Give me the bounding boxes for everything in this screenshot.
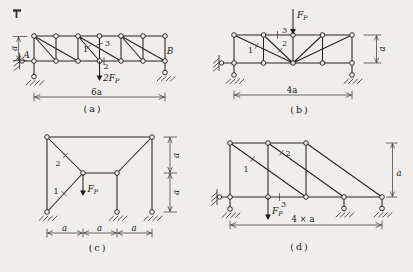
joint-node <box>141 59 146 64</box>
member-2-label: 2 <box>103 62 108 71</box>
joint-node <box>261 33 266 38</box>
joint-node <box>163 59 168 64</box>
joint-node <box>380 195 385 200</box>
dim-span-6a: 6a <box>34 87 165 101</box>
joint-node <box>32 34 37 39</box>
truss-d-members <box>230 143 382 197</box>
joint-node <box>228 195 233 200</box>
dim-span-4a: 4a <box>234 85 352 100</box>
load-label: 2FP <box>102 73 120 85</box>
dim-height-label: a <box>9 46 19 51</box>
joint-node <box>119 34 124 39</box>
truss-a-members <box>34 36 165 61</box>
truss-c-nodes <box>45 135 155 215</box>
member-marks-a: 1 2 3 <box>83 39 110 72</box>
truss-c-members <box>47 137 152 212</box>
joint-node <box>119 59 124 64</box>
panel-c: FP 2 1 a a a a a (c) <box>39 135 181 253</box>
member-1-label: 1 <box>83 45 88 54</box>
dim-height-label-lower: a <box>171 190 181 195</box>
dim-height-d: a <box>387 143 402 197</box>
joint-node <box>266 141 271 146</box>
ground-hinge-node <box>342 206 347 211</box>
ground-hatch <box>109 216 127 220</box>
joint-node <box>291 61 296 66</box>
member-marks-c: 2 1 <box>53 153 67 196</box>
caption-b: (b) <box>290 104 310 115</box>
joint-node <box>150 135 155 140</box>
member-1-label: 1 <box>243 165 248 174</box>
support-label-B: B <box>166 46 174 56</box>
truss-problem-figure: 2FP A B 1 2 3 a 6a (a) <box>0 0 413 272</box>
stray-ink-mark <box>13 11 21 19</box>
dim-span-4xa: 4 × a <box>230 214 382 229</box>
dim-span-label-3: a <box>131 223 136 233</box>
ground-hinge-node <box>380 206 385 211</box>
wall-hinge-node <box>219 61 223 65</box>
dim-tick <box>387 143 398 197</box>
wall-hatch <box>214 59 220 72</box>
member-3-label: 3 <box>281 200 286 209</box>
joint-node <box>76 59 81 64</box>
ground-hatch <box>26 81 44 85</box>
dim-height-label-upper: a <box>171 153 181 158</box>
member-3-label: 3 <box>282 26 287 35</box>
joint-node <box>76 34 81 39</box>
joint-node <box>163 34 168 39</box>
load-arrow-head <box>97 76 103 82</box>
pin-support-node <box>150 210 155 215</box>
load-fp-c: FP <box>80 175 99 197</box>
member-3-label: 3 <box>105 39 110 48</box>
ground-hinge-node <box>228 207 233 212</box>
caption-a: (a) <box>83 103 102 114</box>
support-label-A: A <box>22 50 30 60</box>
joint-node <box>304 195 309 200</box>
support-d-left <box>212 190 241 218</box>
wall-hatch <box>212 193 218 206</box>
joint-node <box>350 61 355 66</box>
dim-span-label-1: a <box>62 223 67 233</box>
joint-node <box>115 171 120 176</box>
member-2-label: 2 <box>282 39 287 48</box>
joint-node <box>261 61 266 66</box>
diagonal-1 <box>47 173 83 212</box>
diagonal-right <box>117 137 152 173</box>
member-2-label: 2 <box>55 159 60 168</box>
panel-a: 2FP A B 1 2 3 a 6a (a) <box>9 34 175 114</box>
dim-spans-c: a a a <box>47 223 152 238</box>
dim-height-b: a <box>364 35 387 63</box>
panel-d: FP 1 2 3 a 4 × a (d) <box>212 141 402 252</box>
dim-span-label: 6a <box>91 87 101 97</box>
dim-height-label: a <box>397 168 402 178</box>
dim-heights-c: a a <box>164 137 181 212</box>
joint-node <box>350 33 355 38</box>
ground-hatch <box>344 79 362 83</box>
ground-hatch <box>157 77 175 81</box>
ground-hatch <box>222 213 240 217</box>
joint-node <box>320 61 325 66</box>
supports-c <box>39 216 162 220</box>
dim-height-label: a <box>377 46 387 51</box>
load-label: FP <box>87 184 99 196</box>
ground-hinge-node <box>232 73 237 78</box>
dim-span-label: 4a <box>287 85 297 95</box>
joint-node <box>342 195 347 200</box>
diagonal-2 <box>47 137 83 173</box>
ground-hatch <box>144 216 162 220</box>
pin-support-node <box>45 210 50 215</box>
ground-hinge-node <box>163 70 168 75</box>
member-1-tick <box>251 157 254 162</box>
joint-node <box>97 34 102 39</box>
member-2-tick <box>280 150 283 155</box>
ground-hinge-node <box>32 74 37 79</box>
dim-span-label-2: a <box>97 223 102 233</box>
caption-d: (d) <box>290 241 310 252</box>
joint-node <box>228 141 233 146</box>
ground-hatch <box>374 213 392 217</box>
joint-node <box>32 59 37 64</box>
ground-hinge-node <box>350 73 355 78</box>
joint-node <box>54 34 59 39</box>
caption-c: (c) <box>89 242 108 253</box>
member-1-label: 1 <box>53 187 58 196</box>
member-2-label: 2 <box>285 149 290 158</box>
